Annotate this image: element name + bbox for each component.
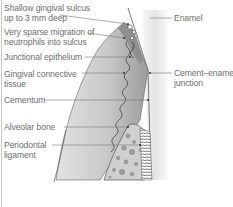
label-line: Gingival connective [4,69,77,79]
label-line: Junctional epithelium [4,52,82,62]
label-line: junction [174,78,233,88]
periodontal-ligament [140,128,152,180]
label-line: ligament [4,150,46,160]
label-line: Periodontal [4,140,46,150]
label-line: Cementum [4,95,45,105]
label-periodontal-ligament: Periodontal ligament [4,140,46,160]
label-line: Very sparse migration of [4,27,94,37]
label-cement-enamel-junction: Cement–enamel junction [174,68,233,88]
label-neutrophil-migration: Very sparse migration of neutrophils int… [4,27,94,47]
label-line: neutrophils into sulcus [4,37,94,47]
label-enamel: Enamel [174,13,203,23]
label-line: tissue [4,79,77,89]
label-line: Enamel [174,13,203,23]
label-line: Cement–enamel [174,68,233,78]
label-gingival-sulcus: Shallow gingival sulcus up to 3 mm deep [4,3,90,23]
label-cementum: Cementum [4,95,45,105]
label-line: Alveolar bone [4,122,55,132]
label-junctional-epithelium: Junctional epithelium [4,52,82,62]
label-line: up to 3 mm deep [4,13,90,23]
diagram-frame: Shallow gingival sulcus up to 3 mm deep … [0,0,233,207]
label-gingival-connective-tissue: Gingival connective tissue [4,69,77,89]
label-alveolar-bone: Alveolar bone [4,122,55,132]
label-line: Shallow gingival sulcus [4,3,90,13]
